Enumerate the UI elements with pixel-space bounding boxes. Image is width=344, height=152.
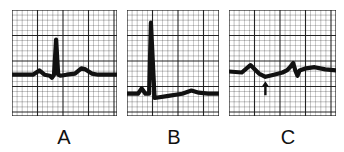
ecg-panel-c [229,10,336,116]
ecg-strip-b [127,10,219,116]
panel-label-b: B [159,126,189,148]
ecg-panel-a [12,10,117,116]
panel-label-a: A [49,126,79,148]
grid-border [229,10,336,116]
ecg-panel-b [127,10,219,116]
ecg-strip-c [229,10,336,116]
grid-border [12,10,117,116]
panel-label-c: C [273,126,303,148]
ecg-strip-a [12,10,117,116]
